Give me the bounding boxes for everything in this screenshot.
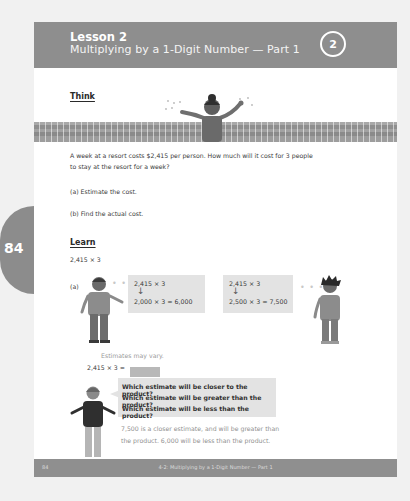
lesson-number-badge: 2 [320,31,346,57]
think-problem-line-1: A week at a resort costs $2,415 per pers… [70,150,313,161]
answer-line-2: the product. 6,000 will be less than the… [121,435,270,446]
lesson-label: Lesson 2 [70,31,127,43]
estimate-right-line-2: 2,500 × 3 = 7,500 [229,298,288,305]
question-bubble: Which estimate will be closer to the pro… [118,378,276,417]
footer-chapter-title: 4-2: Multiplying by a 1-Digit Number — P… [34,464,397,470]
estimates-note: Estimates may vary. [101,350,164,361]
side-page-number: 84 [4,240,23,256]
answer-line-1: 7,500 is a closer estimate, and will be … [121,423,279,434]
estimate-box-right: 2,415 × 3 ↓ 2,500 × 3 = 7,500 [223,275,293,313]
lesson-header: Lesson 2 Multiplying by a 1-Digit Number… [34,22,397,68]
down-arrow-icon: ↓ [137,286,145,296]
page-number-tab: 84 [0,206,34,294]
lesson-subtitle: Multiplying by a 1-Digit Number — Part 1 [70,43,300,56]
think-heading: Think [70,92,95,101]
question-3: Which estimate will be less than the pro… [122,405,276,419]
estimate-box-left: 2,415 × 3 ↓ 2,000 × 3 = 6,000 [128,275,205,313]
swimmer-illustration [180,92,250,144]
child-right-illustration [312,275,348,347]
answer-blank [130,367,160,377]
lesson-number: 2 [329,38,337,51]
learn-heading: Learn [70,238,96,247]
estimate-left-line-2: 2,000 × 3 = 6,000 [134,298,193,305]
down-arrow-icon: ↓ [232,286,240,296]
learn-expression: 2,415 × 3 [70,254,101,265]
page-footer: 84 4-2: Multiplying by a 1-Digit Number … [34,459,397,477]
think-part-b: (b) Find the actual cost. [70,208,143,219]
think-problem-line-2: to stay at the resort for a week? [70,161,170,172]
approx-expression: 2,415 × 3 ≈ [87,362,125,373]
think-part-a: (a) Estimate the cost. [70,186,137,197]
learn-part-a-label: (a) [70,281,79,292]
